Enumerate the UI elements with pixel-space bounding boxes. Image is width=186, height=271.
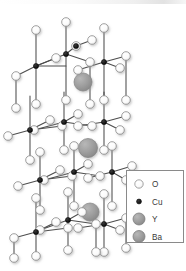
legend-label: Ba: [152, 233, 162, 242]
legend-swatch-gray-sphere: [133, 213, 145, 225]
copper-atom: [33, 229, 38, 234]
oxygen-atom: [88, 122, 97, 131]
oxygen-atom: [10, 254, 19, 263]
copper-atom: [65, 217, 70, 222]
oxygen-atom: [92, 220, 101, 229]
oxygen-atom: [78, 208, 87, 217]
oxygen-atom: [84, 160, 93, 169]
oxygen-atom: [108, 202, 117, 211]
oxygen-atom: [100, 248, 109, 257]
oxygen-atom: [4, 132, 13, 141]
copper-atom: [109, 169, 114, 174]
oxygen-atom: [122, 52, 131, 61]
oxygen-atom: [64, 224, 73, 233]
oxygen-atom: [128, 162, 137, 171]
oxygen-atom: [64, 246, 73, 255]
oxygen-atom: [14, 182, 23, 191]
oxygen-atom: [32, 26, 41, 35]
copper-atom: [73, 43, 78, 48]
oxygen-atom: [116, 126, 125, 135]
oxygen-atom: [32, 252, 41, 261]
oxygen-atom: [32, 100, 41, 109]
copper-atom: [61, 119, 66, 124]
oxygen-atom: [32, 194, 41, 203]
copper-atom: [101, 119, 106, 124]
oxygen-atom: [64, 188, 73, 197]
oxygen-atom: [10, 234, 19, 243]
oxygen-atom: [62, 18, 71, 27]
barium-atom: [74, 73, 92, 91]
oxygen-atom: [100, 190, 109, 199]
legend-label: O: [152, 180, 158, 189]
oxygen-atom: [52, 54, 61, 63]
oxygen-atom: [12, 104, 21, 113]
legend-swatch-filled-dot: [137, 199, 142, 204]
oxygen-atom: [74, 224, 83, 233]
bond-network: [8, 22, 132, 258]
oxygen-atom: [122, 96, 131, 105]
oxygen-atom: [116, 64, 125, 73]
copper-atom: [37, 177, 42, 182]
oxygen-atom: [36, 148, 45, 157]
oxygen-atom: [92, 248, 101, 257]
copper-atom: [101, 221, 106, 226]
oxygen-atom: [60, 146, 69, 155]
oxygen-atom: [46, 116, 55, 125]
oxygen-atom: [52, 218, 61, 227]
oxygen-atom: [84, 174, 93, 183]
oxygen-atom: [86, 100, 95, 109]
oxygen-atom: [108, 142, 117, 151]
legend-label: Y: [152, 215, 158, 224]
copper-atom: [33, 63, 38, 68]
oxygen-atom: [70, 142, 79, 151]
copper-atom: [27, 127, 32, 132]
oxygen-atom: [74, 66, 83, 75]
oxygen-atom: [56, 166, 65, 175]
oxygen-atom: [100, 96, 109, 105]
oxygen-atom: [122, 244, 131, 253]
oxygen-atom: [122, 112, 131, 121]
oxygen-atom: [62, 96, 71, 105]
oxygen-atom: [74, 122, 83, 131]
oxygen-atom: [100, 146, 109, 155]
figure-canvas: OCuYBa: [0, 0, 186, 271]
copper-atom: [71, 169, 76, 174]
oxygen-atom: [86, 58, 95, 67]
oxygen-atom: [116, 226, 125, 235]
legend-swatch-gray-sphere: [133, 231, 145, 243]
oxygen-atom: [36, 206, 45, 215]
oxygen-atom-layer: [4, 18, 137, 263]
legend-swatch-open-circle: [135, 180, 143, 188]
oxygen-atom: [70, 202, 79, 211]
legend: OCuYBa: [127, 171, 184, 243]
legend-label: Cu: [152, 198, 163, 207]
oxygen-atom: [100, 24, 109, 33]
bond: [36, 54, 66, 66]
crystal-structure-diagram: OCuYBa: [0, 0, 186, 271]
copper-atom: [101, 59, 106, 64]
oxygen-atom: [96, 172, 105, 181]
oxygen-atom: [88, 36, 97, 45]
oxygen-atom: [12, 72, 21, 81]
oxygen-atom: [74, 110, 83, 119]
oxygen-atom: [26, 156, 35, 165]
copper-atom: [63, 51, 68, 56]
yttrium-atom: [79, 139, 98, 158]
